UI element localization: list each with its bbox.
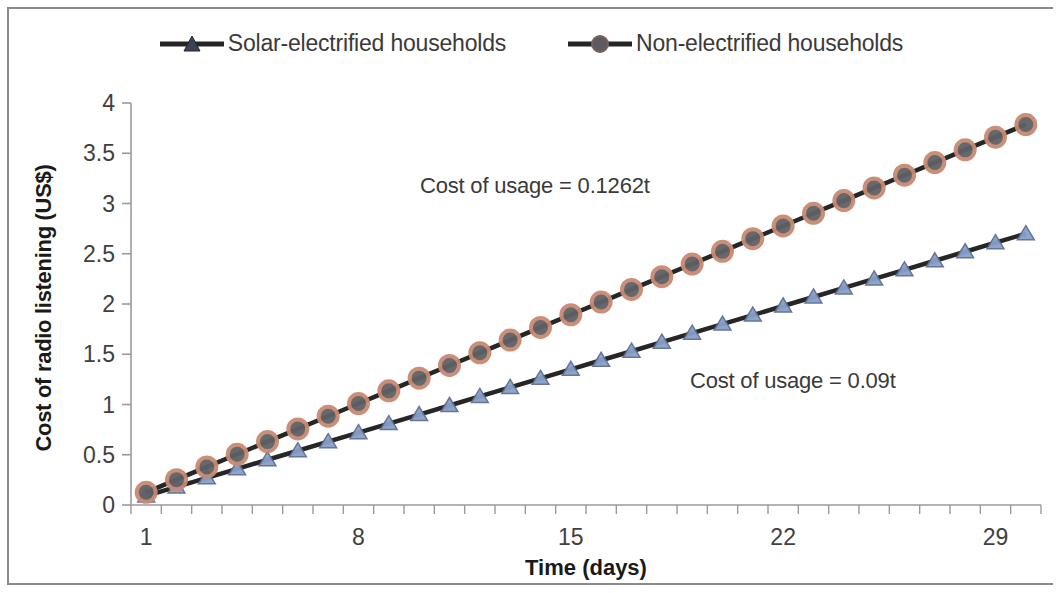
y-tick-label: 2 [102, 291, 115, 317]
series-solar [138, 226, 1034, 502]
y-tick-label: 3.5 [83, 140, 115, 166]
x-axis-title: Time (days) [131, 555, 1041, 581]
chart-figure: Solar-electrified households Non-electri… [0, 0, 1061, 593]
annotation-solar: Cost of usage = 0.09t [690, 368, 896, 394]
annotation-non-electrified: Cost of usage = 0.1262t [420, 173, 650, 199]
x-tick-label: 15 [558, 524, 584, 550]
x-tick-label: 22 [770, 524, 796, 550]
y-tick-label: 4 [102, 90, 115, 116]
x-tick-label: 8 [352, 524, 365, 550]
y-tick-label: 0 [102, 492, 115, 518]
y-tick-label: 3 [102, 191, 115, 217]
y-axis-title: Cost of radio listening (US$) [31, 98, 57, 518]
x-tick-label: 1 [140, 524, 153, 550]
plot-area: 00.511.522.533.5418152229 Cost of radio … [0, 0, 1061, 593]
y-tick-label: 1 [102, 392, 115, 418]
y-tick-label: 0.5 [83, 442, 115, 468]
y-tick-label: 2.5 [83, 241, 115, 267]
chart-canvas: 00.511.522.533.5418152229 [0, 0, 1061, 593]
x-tick-label: 29 [983, 524, 1009, 550]
y-tick-label: 1.5 [83, 341, 115, 367]
